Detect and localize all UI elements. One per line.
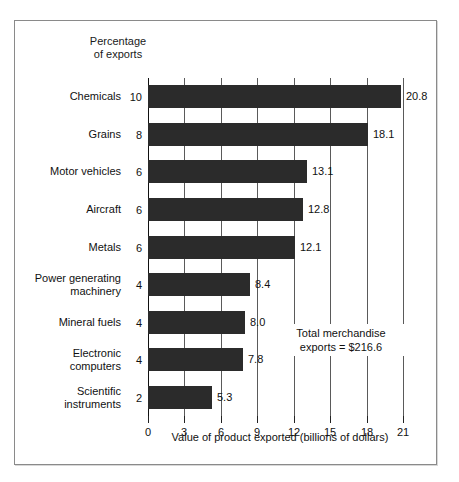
category-row: Chemicals10	[15, 85, 148, 108]
percentage-of-exports-value: 4	[128, 354, 148, 366]
figure-frame: Percentage of exports Chemicals10Grains8…	[14, 20, 437, 465]
percentage-of-exports-value: 4	[128, 279, 148, 291]
category-row: Power generating machinery4	[15, 273, 148, 296]
bar	[148, 273, 250, 296]
category-label: Electronic computers	[70, 347, 128, 372]
category-label: Chemicals	[70, 90, 128, 103]
bar	[148, 386, 212, 409]
x-tick-mark-3	[184, 416, 185, 423]
x-tick-mark-18	[367, 416, 368, 423]
bar	[148, 85, 401, 108]
plot-area: 03691215182120.818.113.112.812.18.48.07.…	[148, 78, 403, 416]
category-label: Motor vehicles	[50, 165, 128, 178]
percentage-of-exports-header: Percentage of exports	[75, 35, 161, 61]
category-row: Grains8	[15, 123, 148, 146]
bar-value-label: 8.4	[255, 273, 270, 296]
bar	[148, 123, 368, 146]
bar	[148, 348, 243, 371]
category-row: Aircraft6	[15, 198, 148, 221]
total-exports-annotation: Total merchandise exports = $216.6	[271, 324, 411, 356]
x-tick-mark-15	[330, 416, 331, 423]
x-tick-mark-12	[294, 416, 295, 423]
percentage-header-line-1: Percentage	[75, 35, 161, 48]
x-tick-mark-0	[148, 416, 149, 423]
bar-value-label: 13.1	[312, 160, 333, 183]
percentage-of-exports-value: 6	[128, 204, 148, 216]
percentage-of-exports-value: 2	[128, 392, 148, 404]
percentage-of-exports-value: 4	[128, 317, 148, 329]
bar-value-label: 5.3	[217, 386, 232, 409]
x-tick-mark-6	[221, 416, 222, 423]
category-label: Aircraft	[86, 203, 128, 216]
x-tick-mark-9	[257, 416, 258, 423]
bar	[148, 311, 245, 334]
category-label: Scientific instruments	[64, 385, 128, 410]
category-row: Motor vehicles6	[15, 160, 148, 183]
bar-value-label: 8.0	[250, 311, 265, 334]
category-row: Scientific instruments2	[15, 386, 148, 409]
bar-value-label: 18.1	[373, 123, 394, 146]
category-label: Mineral fuels	[59, 316, 128, 329]
percentage-of-exports-value: 8	[128, 129, 148, 141]
category-label-column: Chemicals10Grains8Motor vehicles6Aircraf…	[15, 78, 148, 416]
bar-value-label: 7.8	[248, 348, 263, 371]
bar	[148, 236, 295, 259]
bar-value-label: 12.1	[300, 236, 321, 259]
category-row: Mineral fuels4	[15, 311, 148, 334]
bar-value-label: 20.8	[406, 85, 427, 108]
annotation-line-2: exports = $216.6	[271, 340, 411, 354]
category-row: Electronic computers4	[15, 348, 148, 371]
bar	[148, 198, 303, 221]
x-axis-title: Value of product exported (billions of d…	[125, 431, 435, 443]
category-label: Power generating machinery	[35, 272, 128, 297]
bar-value-label: 12.8	[308, 198, 329, 221]
annotation-line-1: Total merchandise	[271, 326, 411, 340]
gridline-21	[403, 78, 404, 416]
percentage-of-exports-value: 6	[128, 166, 148, 178]
percentage-of-exports-value: 10	[128, 91, 148, 103]
bar	[148, 160, 307, 183]
category-label: Metals	[89, 241, 128, 254]
x-tick-mark-21	[403, 416, 404, 423]
percentage-header-line-2: of exports	[75, 48, 161, 61]
percentage-of-exports-value: 6	[128, 242, 148, 254]
category-row: Metals6	[15, 236, 148, 259]
category-label: Grains	[89, 128, 128, 141]
